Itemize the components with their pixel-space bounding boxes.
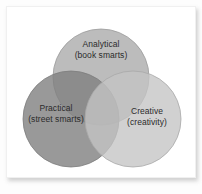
venn-circles-graphic: [7, 7, 195, 177]
venn-circle-creative[interactable]: [85, 71, 181, 167]
figure-root: Analytical (book smarts) Practical (stre…: [0, 0, 202, 194]
venn-diagram: Analytical (book smarts) Practical (stre…: [7, 7, 195, 177]
diagram-panel: Analytical (book smarts) Practical (stre…: [6, 6, 196, 178]
